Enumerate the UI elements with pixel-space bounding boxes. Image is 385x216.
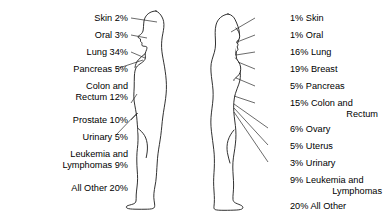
leader-female-uterus — [234, 108, 268, 145]
male-label-rectum-text: Rectum 12% — [75, 92, 128, 103]
female-label-lung: 16% Lung — [290, 47, 331, 58]
female-label-urinary-text: 3% Urinary — [290, 158, 335, 168]
female-label-uterus: 5% Uterus — [290, 141, 333, 152]
female-label-leukemia-lymphomas: 9% Leukemia and Lymphomas — [290, 175, 382, 196]
female-label-rectum-text: Rectum — [290, 109, 378, 120]
male-label-all-other-text: All Other 20% — [71, 183, 128, 193]
leader-female-ovary — [234, 104, 268, 128]
leader-female-urinary — [234, 112, 268, 162]
male-label-prostate: Prostate 10% — [73, 115, 128, 126]
female-label-lung-text: 16% Lung — [290, 47, 331, 57]
female-label-colon-rectum: 15% Colon and Rectum — [290, 98, 378, 119]
male-label-pancreas-text: Pancreas 5% — [73, 64, 128, 74]
female-label-pancreas: 5% Pancreas — [290, 81, 345, 92]
female-label-leukemia-text: 9% Leukemia and — [290, 175, 364, 185]
female-label-pancreas-text: 5% Pancreas — [290, 81, 345, 91]
male-label-pancreas: Pancreas 5% — [73, 64, 128, 75]
male-label-urinary-text: Urinary 5% — [83, 132, 128, 142]
leader-female-lung — [236, 52, 255, 55]
male-label-colon-text: Colon and — [86, 81, 128, 91]
female-label-breast-text: 19% Breast — [290, 64, 338, 74]
female-label-breast: 19% Breast — [290, 64, 338, 75]
leader-female-colon-rectum — [234, 96, 255, 103]
female-label-ovary-text: 6% Ovary — [290, 124, 330, 134]
female-label-lymphomas-text: Lymphomas — [290, 186, 382, 197]
male-outline — [126, 11, 166, 209]
female-label-oral: 1% Oral — [290, 30, 323, 41]
female-label-skin-text: 1% Skin — [290, 13, 324, 23]
male-label-colon-rectum: Colon and Rectum 12% — [75, 81, 128, 102]
male-label-skin: Skin 2% — [94, 13, 128, 24]
female-label-all-other: 20% All Other — [290, 201, 346, 212]
male-body-silhouette — [126, 11, 166, 209]
male-label-lung: Lung 34% — [87, 47, 128, 58]
female-label-urinary: 3% Urinary — [290, 158, 335, 169]
female-label-uterus-text: 5% Uterus — [290, 141, 333, 151]
male-label-urinary: Urinary 5% — [83, 132, 128, 143]
male-label-lung-text: Lung 34% — [87, 47, 128, 57]
male-label-lymphomas-text: Lymphomas 9% — [62, 160, 128, 171]
female-label-skin: 1% Skin — [290, 13, 324, 24]
male-label-oral-text: Oral 3% — [95, 30, 128, 40]
female-label-colon-text: 15% Colon and — [290, 98, 353, 108]
female-label-ovary: 6% Ovary — [290, 124, 330, 135]
male-label-leukemia-lymphomas: Leukemia and Lymphomas 9% — [62, 149, 128, 170]
female-label-oral-text: 1% Oral — [290, 30, 323, 40]
male-label-all-other: All Other 20% — [71, 183, 128, 194]
male-label-skin-text: Skin 2% — [94, 13, 128, 23]
male-label-oral: Oral 3% — [95, 30, 128, 41]
male-label-leukemia-text: Leukemia and — [70, 149, 128, 159]
cancer-incidence-diagram: Skin 2% Oral 3% Lung 34% Pancreas 5% Col… — [0, 0, 385, 216]
female-label-all-other-text: 20% All Other — [290, 201, 346, 211]
male-label-prostate-text: Prostate 10% — [73, 115, 128, 125]
